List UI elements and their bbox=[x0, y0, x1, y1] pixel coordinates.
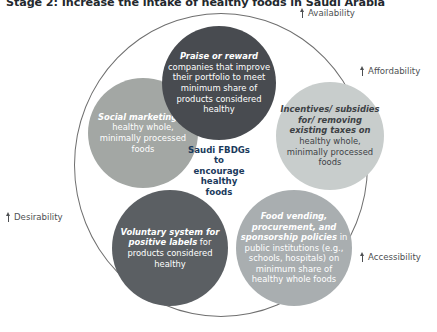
dimension-desirability-label: Desirability bbox=[14, 212, 63, 222]
dimension-accessibility: Accessibility bbox=[360, 252, 421, 262]
up-arrow-icon bbox=[300, 8, 305, 18]
dimension-affordability: Affordability bbox=[360, 66, 420, 76]
bubble-voluntary-labels: Voluntary system for positive labels for… bbox=[112, 190, 228, 306]
up-arrow-icon bbox=[360, 252, 365, 262]
bubble-botright-lead: Food vending, procurement, and sponsorsh… bbox=[241, 211, 337, 242]
bubble-top-rest: companies that improve their portfolio t… bbox=[168, 62, 270, 114]
dimension-accessibility-label: Accessibility bbox=[368, 252, 421, 262]
up-arrow-icon bbox=[360, 66, 365, 76]
figure-canvas: Stage 2: Increase the intake of healthy … bbox=[0, 0, 437, 332]
bubble-praise-or-reward: Praise or reward companies that improve … bbox=[162, 26, 276, 140]
bubble-right-rest: healthy whole, minimally processed foods bbox=[287, 136, 373, 167]
center-hub: Saudi FBDGs to encourage healthy foods bbox=[188, 140, 250, 202]
dimension-desirability: Desirability bbox=[6, 212, 63, 222]
bubble-food-vending-policies: Food vending, procurement, and sponsorsh… bbox=[236, 190, 352, 306]
dimension-availability-label: Availability bbox=[308, 8, 355, 18]
dimension-affordability-label: Affordability bbox=[368, 66, 420, 76]
center-hub-label: Saudi FBDGs to encourage healthy foods bbox=[188, 145, 250, 198]
figure-title: Stage 2: Increase the intake of healthy … bbox=[6, 0, 426, 9]
dimension-availability: Availability bbox=[300, 8, 355, 18]
bubble-top-lead: Praise or reward bbox=[180, 51, 258, 61]
bubble-right-lead: Incentives/ subsidies for/ removing exis… bbox=[281, 104, 380, 135]
up-arrow-icon bbox=[6, 212, 11, 222]
bubble-incentives-subsidies: Incentives/ subsidies for/ removing exis… bbox=[276, 82, 384, 190]
